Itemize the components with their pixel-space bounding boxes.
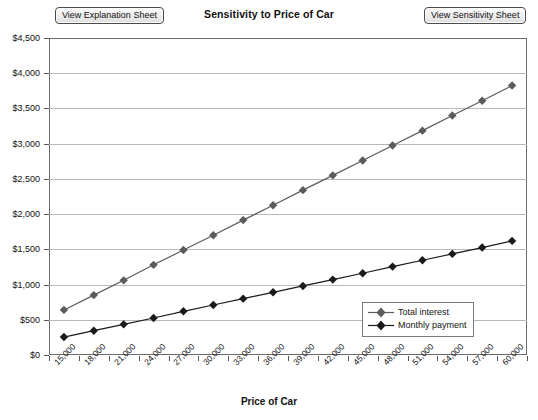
- y-axis-tick-label: $4,500: [0, 33, 40, 43]
- x-axis-tick: [437, 356, 438, 361]
- y-axis-tick-label: $1,500: [0, 244, 40, 254]
- x-axis-tick: [49, 356, 50, 361]
- gridline: [49, 179, 527, 180]
- y-axis-tick-label: $1,000: [0, 280, 40, 290]
- view-sensitivity-sheet-button[interactable]: View Sensitivity Sheet: [424, 7, 526, 24]
- y-axis-tick: [44, 179, 49, 180]
- x-axis-tick: [228, 356, 229, 361]
- chart-page: View Explanation Sheet Sensitivity to Pr…: [0, 0, 538, 420]
- chart-toolbar: View Explanation Sheet Sensitivity to Pr…: [0, 0, 538, 26]
- x-axis-tick: [378, 356, 379, 361]
- x-axis-tick: [79, 356, 80, 361]
- gridline: [49, 249, 527, 250]
- x-axis-tick: [139, 356, 140, 361]
- x-axis-tick: [109, 356, 110, 361]
- y-axis-tick-label: $3,500: [0, 103, 40, 113]
- legend-marker-total-interest: [368, 307, 394, 318]
- gridline: [49, 73, 527, 74]
- y-axis-tick: [44, 108, 49, 109]
- y-axis-labels: $4,500$4,000$3,500$3,000$2,500$2,000$1,5…: [0, 0, 45, 420]
- y-axis-tick: [44, 214, 49, 215]
- x-axis-tick: [198, 356, 199, 361]
- gridline: [49, 108, 527, 109]
- gridline: [49, 144, 527, 145]
- x-axis-tick: [318, 356, 319, 361]
- gridline: [49, 285, 527, 286]
- x-axis-title: Price of Car: [0, 396, 538, 407]
- y-axis-tick-label: $3,000: [0, 139, 40, 149]
- chart-legend: Total interest Monthly payment: [362, 302, 474, 337]
- x-axis-tick: [258, 356, 259, 361]
- legend-item-total-interest: Total interest: [368, 306, 467, 319]
- legend-label-monthly-payment: Monthly payment: [398, 320, 467, 331]
- x-axis-tick: [169, 356, 170, 361]
- y-axis-tick-label: $2,000: [0, 209, 40, 219]
- y-axis-tick: [44, 320, 49, 321]
- y-axis-tick-label: $2,500: [0, 174, 40, 184]
- y-axis-tick-label: $4,000: [0, 68, 40, 78]
- x-axis-tick: [408, 356, 409, 361]
- x-axis-tick: [467, 356, 468, 361]
- y-axis-tick: [44, 249, 49, 250]
- legend-label-total-interest: Total interest: [398, 307, 449, 318]
- legend-marker-monthly-payment: [368, 320, 394, 331]
- y-axis-tick: [44, 144, 49, 145]
- x-axis-tick: [288, 356, 289, 361]
- legend-item-monthly-payment: Monthly payment: [368, 319, 467, 332]
- y-axis-tick-label: $500: [0, 315, 40, 325]
- y-axis-tick: [44, 285, 49, 286]
- x-axis-tick: [527, 356, 528, 361]
- x-axis-tick: [497, 356, 498, 361]
- x-axis-tick: [348, 356, 349, 361]
- y-axis-tick-label: $0: [0, 350, 40, 360]
- y-axis-tick: [44, 38, 49, 39]
- y-axis-tick: [44, 73, 49, 74]
- gridline: [49, 214, 527, 215]
